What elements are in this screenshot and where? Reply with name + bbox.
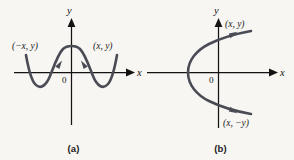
y-axis-arrow-b	[215, 18, 223, 27]
panel-b-plot: x y 0 (x, y) (x, −y)	[147, 0, 294, 160]
x-axis-label-b: x	[279, 67, 285, 78]
x-axis-a	[14, 69, 135, 77]
y-axis-label-a: y	[66, 5, 72, 16]
y-axis-arrow-a	[68, 18, 76, 27]
figure-container: x y 0 (−x, y) (x, y) (a)	[0, 0, 294, 160]
x-axis-arrow-b	[269, 69, 278, 77]
point-label-x-negative-y: (x, −y)	[223, 118, 249, 129]
y-axis-label-b: y	[213, 5, 219, 16]
point-label-x-y-a: (x, y)	[93, 41, 113, 52]
panel-a-plot: x y 0 (−x, y) (x, y)	[0, 0, 147, 160]
y-axis-a	[68, 18, 76, 125]
origin-label-b: 0	[209, 75, 214, 85]
panel-b-caption: (b)	[147, 143, 294, 154]
x-axis-label-a: x	[136, 67, 142, 78]
parabola-upper-branch	[188, 31, 251, 73]
x-axis-arrow-a	[126, 69, 135, 77]
panel-a-caption: (a)	[0, 143, 147, 154]
panel-b: x y 0 (x, y) (x, −y) (b)	[147, 0, 294, 160]
point-label-negative-x-y: (−x, y)	[12, 41, 38, 52]
point-label-x-y-b: (x, y)	[225, 19, 245, 30]
parabola-lower-branch	[188, 73, 251, 115]
origin-label-a: 0	[62, 75, 67, 85]
panel-a: x y 0 (−x, y) (x, y) (a)	[0, 0, 147, 160]
